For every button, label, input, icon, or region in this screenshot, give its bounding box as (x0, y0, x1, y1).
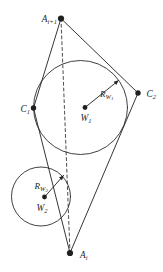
point-a-top (58, 15, 64, 21)
point-a-bottom (67, 250, 73, 256)
point-c1 (31, 105, 36, 110)
figure-canvas: Ai+1 C1 C2 W1 RW1 W2 RW2 Ai (0, 0, 163, 272)
geometry-diagram: Ai+1 C1 C2 W1 RW1 W2 RW2 Ai (0, 0, 163, 272)
point-c2 (135, 90, 140, 95)
figure-background (0, 0, 163, 272)
point-w2 (42, 195, 47, 200)
point-w1 (83, 105, 88, 110)
